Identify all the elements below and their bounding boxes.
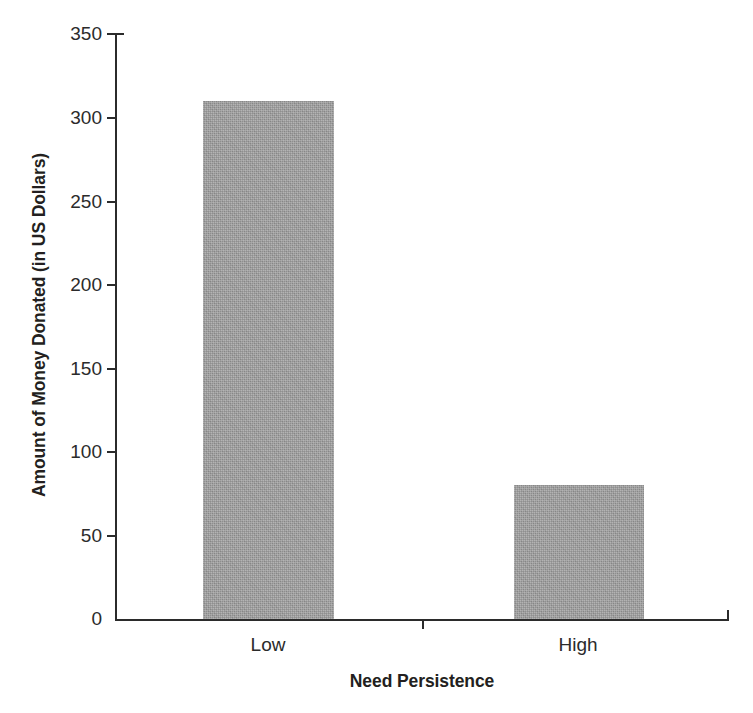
y-axis-line xyxy=(115,34,117,620)
y-tick-label: 250 xyxy=(32,191,102,213)
x-tick-label-high: High xyxy=(478,634,678,656)
y-tick-label: 0 xyxy=(32,608,102,630)
bar-chart-figure: Amount of Money Donated (in US Dollars) … xyxy=(0,0,753,713)
x-tick-label-low: Low xyxy=(168,634,368,656)
bar-low xyxy=(203,101,334,619)
y-tick-label: 50 xyxy=(32,525,102,547)
y-tick-label: 300 xyxy=(32,107,102,129)
y-tick-label: 150 xyxy=(32,358,102,380)
x-tick-mark-middle xyxy=(422,619,424,629)
x-tick-mark-origin xyxy=(115,610,117,621)
y-tick-label: 350 xyxy=(32,23,102,45)
y-axis-tick-labels: 350 300 250 200 150 100 50 0 xyxy=(30,0,102,713)
y-tick-label: 200 xyxy=(32,274,102,296)
x-axis-title: Need Persistence xyxy=(115,671,729,692)
y-axis-top-cap xyxy=(115,33,124,35)
bar-high xyxy=(514,485,644,619)
y-tick-label: 100 xyxy=(32,441,102,463)
x-axis-end-cap xyxy=(727,610,729,621)
